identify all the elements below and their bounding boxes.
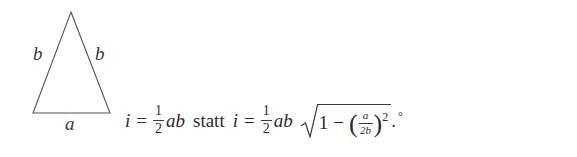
triangle-label-base: a: [65, 114, 75, 133]
radicand-fraction-denominator: 2b: [359, 125, 372, 136]
rhs-relation: =: [239, 110, 260, 132]
triangle-label-right-side: b: [95, 44, 105, 63]
lhs-fraction-denominator: 2: [154, 122, 163, 136]
radicand-inner-fraction: a 2b: [359, 110, 373, 135]
radicand: 1 − ( a 2b ) 2: [317, 104, 392, 138]
equation-line: i = 1 2 ab statt i = 1 2 ab 1 − (: [124, 99, 401, 143]
lhs-relation: =: [131, 110, 152, 132]
lhs-fraction-one-half: 1 2: [153, 104, 164, 136]
radicand-one: 1: [319, 112, 329, 134]
lhs-variable: i: [124, 110, 131, 132]
radical-sign-icon: [301, 104, 318, 138]
square-root-expression: 1 − ( a 2b ) 2: [301, 104, 392, 138]
lhs-fraction-numerator: 1: [154, 104, 163, 118]
radicand-exponent: 2: [382, 110, 388, 125]
rhs-fraction-denominator: 2: [262, 122, 271, 136]
document-page: b b a i = 1 2 ab statt i = 1 2 ab: [0, 0, 577, 157]
lhs-factors: ab: [165, 110, 186, 132]
triangle-label-left-side: b: [33, 44, 43, 63]
triangle-outline-icon: [0, 0, 120, 140]
radicand-fraction-numerator: a: [362, 110, 370, 121]
triangle-figure: b b a: [0, 0, 120, 140]
connector-word: statt: [186, 110, 232, 132]
degree-symbol: °: [398, 109, 403, 124]
rhs-fraction-one-half: 1 2: [261, 104, 272, 136]
radicand-close-paren: ): [374, 114, 383, 134]
radicand-open-paren: (: [349, 114, 358, 134]
rhs-fraction-numerator: 1: [262, 104, 271, 118]
rhs-variable: i: [232, 110, 239, 132]
radicand-minus: −: [328, 112, 349, 134]
trailing-period: .: [391, 110, 396, 132]
rhs-factors: ab: [273, 110, 294, 132]
